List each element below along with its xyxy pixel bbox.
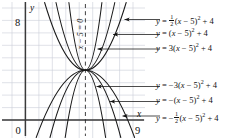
x-axis-title: x [136,109,142,119]
equation-half-up: y = 12(x − 5)2 + 4 [156,14,214,27]
equation-three-down: y = −3(x − 5)2 + 4 [156,81,217,90]
x-tick-label-9: 9 [135,125,140,136]
equation-half-down: y = −12(x − 5)2 + 4 [156,111,219,124]
fraction-one-half: 12 [169,14,174,27]
origin-label-0: 0 [15,125,20,136]
equation-one-down: y = −(x − 5)2 + 4 [156,96,213,105]
equation-legend: y = 12(x − 5)2 + 4 y = (x − 5)2 + 4 y = … [150,0,249,140]
equation-one-up: y = (x − 5)2 + 4 [156,29,208,38]
y-tick-label-8: 8 [15,17,20,28]
equation-three-up: y = 3(x − 5)2 + 4 [156,44,212,53]
fraction-one-half: 12 [174,111,179,124]
figure-container: 8 0 9 y x x − 5 = 0 y = 12(x − 5)2 + 4 y… [0,0,249,140]
axis-of-symmetry-label: x − 5 = 0 [76,19,85,50]
y-axis-title: y [29,3,35,13]
